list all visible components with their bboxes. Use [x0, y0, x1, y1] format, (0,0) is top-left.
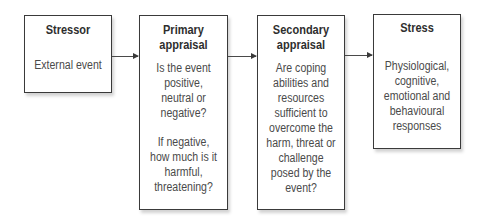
body-line: emotional and: [379, 89, 455, 104]
body-line: Are coping: [263, 61, 339, 76]
body-line: abilities and: [263, 76, 339, 91]
body-line: posed by the: [263, 166, 339, 181]
body-line: behavioural: [379, 104, 455, 119]
body-line: positive,: [145, 76, 222, 91]
spacer: [145, 121, 222, 135]
body-line: cognitive,: [379, 74, 455, 89]
stressor-title: Stressor: [30, 23, 106, 38]
body-line: harmful,: [145, 165, 222, 180]
body-line: threatening?: [145, 180, 222, 195]
body-line: neutral or: [145, 91, 222, 106]
stressor-box: Stressor External event: [24, 15, 112, 93]
body-line: negative?: [145, 106, 222, 121]
title-line: appraisal: [145, 38, 222, 53]
primary-appraisal-title: Primary appraisal: [145, 23, 222, 53]
arrow-stressor-to-primary: [112, 56, 138, 57]
body-line: harm, threat or: [263, 136, 339, 151]
secondary-appraisal-box: Secondary appraisal Are coping abilities…: [257, 15, 345, 210]
stress-title: Stress: [379, 21, 455, 36]
stress-body: Physiological, cognitive, emotional and …: [379, 59, 455, 134]
body-line: overcome the: [263, 121, 339, 136]
arrow-secondary-to-stress: [345, 55, 372, 56]
primary-appraisal-box: Primary appraisal Is the event positive,…: [139, 15, 228, 210]
body-line: challenge: [263, 151, 339, 166]
stressor-body: External event: [30, 58, 106, 73]
body-line: Physiological,: [379, 59, 455, 74]
title-line: appraisal: [263, 38, 339, 53]
body-line: Is the event: [145, 61, 222, 76]
body-line: If negative,: [145, 135, 222, 150]
secondary-appraisal-body: Are coping abilities and resources suffi…: [263, 61, 339, 196]
body-line: event?: [263, 181, 339, 196]
primary-appraisal-body: Is the event positive, neutral or negati…: [145, 61, 222, 195]
stress-box: Stress Physiological, cognitive, emotion…: [373, 14, 461, 149]
body-line: sufficient to: [263, 106, 339, 121]
title-line: Secondary: [263, 23, 339, 38]
arrow-primary-to-secondary: [228, 56, 256, 57]
secondary-appraisal-title: Secondary appraisal: [263, 23, 339, 53]
stressor-body-line: External event: [30, 58, 106, 73]
body-line: how much is it: [145, 150, 222, 165]
body-line: resources: [263, 91, 339, 106]
title-line: Primary: [145, 23, 222, 38]
body-line: responses: [379, 119, 455, 134]
